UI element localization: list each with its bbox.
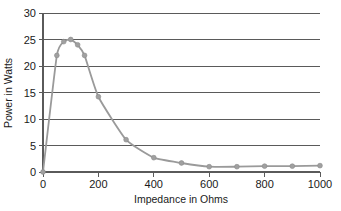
x-tick-label: 400: [145, 178, 163, 190]
data-point: [54, 53, 59, 58]
y-tick-label: 15: [24, 87, 36, 99]
data-point: [96, 94, 101, 99]
y-tick-label: 0: [30, 166, 36, 178]
chart-container: 30 25 20 15 10 5 0 0 200 400 600 800 100…: [0, 0, 341, 211]
data-point: [124, 137, 129, 142]
data-point: [82, 53, 87, 58]
y-axis-title: Power in Watts: [2, 58, 14, 128]
x-tick-label: 600: [200, 178, 218, 190]
data-point: [235, 164, 240, 169]
y-tick-label: 20: [24, 60, 36, 72]
data-point: [262, 164, 267, 169]
data-point: [41, 170, 46, 175]
x-tick-label: 200: [89, 178, 107, 190]
data-point: [151, 155, 156, 160]
y-tick-label: 5: [30, 140, 36, 152]
data-point: [179, 161, 184, 166]
y-tick-label: 30: [24, 7, 36, 19]
x-axis-title: Impedance in Ohms: [134, 193, 228, 205]
data-point: [290, 164, 295, 169]
data-point: [207, 164, 212, 169]
data-point: [61, 39, 66, 44]
data-point: [318, 163, 323, 168]
data-point: [68, 37, 73, 42]
x-tick-label: 0: [40, 178, 46, 190]
x-tick-label: 800: [255, 178, 273, 190]
x-tick-label: 1000: [308, 178, 332, 190]
data-point: [75, 42, 80, 47]
power-vs-impedance-chart: 30 25 20 15 10 5 0 0 200 400 600 800 100…: [0, 0, 341, 211]
y-tick-label: 25: [24, 34, 36, 46]
y-tick-label: 10: [24, 113, 36, 125]
